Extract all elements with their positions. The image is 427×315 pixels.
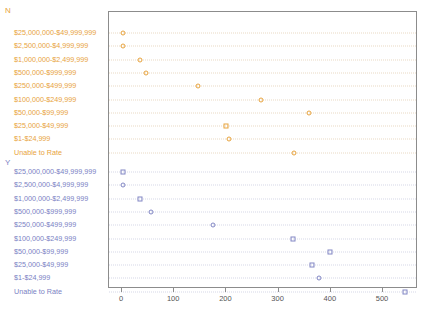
data-point: [290, 236, 295, 241]
gridline-row: [109, 59, 416, 60]
data-point: [306, 110, 311, 115]
category-label: $25,000,000-$49,999,999: [14, 29, 96, 37]
category-label: $100,000-$249,999: [14, 96, 76, 104]
data-point: [211, 223, 216, 228]
category-label: $1,000,000-$2,499,999: [14, 56, 88, 64]
data-point: [138, 196, 143, 201]
data-point: [196, 84, 201, 89]
x-axis-tick-label: 100: [167, 294, 180, 303]
gridline-row: [109, 238, 416, 239]
dot-plot-chart: N Y $25,000,000-$49,999,999$2,500,000-$4…: [0, 0, 427, 315]
category-label: $1-$24,999: [14, 135, 50, 143]
data-point: [120, 31, 125, 36]
category-label: Unable to Rate: [14, 149, 62, 157]
x-axis-tick-label: 400: [324, 294, 337, 303]
data-point: [258, 97, 263, 102]
x-axis-tick: [173, 288, 174, 292]
category-label: $50,000-$99,999: [14, 248, 68, 256]
x-axis-tick-label: 0: [119, 294, 123, 303]
gridline-row: [109, 33, 416, 34]
category-label: $500,000-$999,999: [14, 69, 76, 77]
x-axis-tick-label: 200: [219, 294, 232, 303]
x-axis-tick: [225, 288, 226, 292]
gridline-row: [109, 251, 416, 252]
data-point: [223, 124, 228, 129]
data-point: [121, 170, 126, 175]
data-point: [137, 57, 142, 62]
gridline-row: [109, 139, 416, 140]
gridline-row: [109, 46, 416, 47]
data-point: [226, 137, 231, 142]
gridline-row: [109, 152, 416, 153]
gridline-row: [109, 291, 416, 292]
category-label: $25,000-$49,999: [14, 122, 68, 130]
x-axis-tick: [278, 288, 279, 292]
gridline-row: [109, 86, 416, 87]
x-axis-tick: [121, 288, 122, 292]
data-point: [328, 249, 333, 254]
gridline-row: [109, 185, 416, 186]
category-label: $2,500,000-$4,999,999: [14, 42, 88, 50]
category-label: Unable to Rate: [14, 288, 62, 296]
data-point: [316, 276, 321, 281]
category-label: $25,000-$49,999: [14, 261, 68, 269]
data-point: [120, 183, 125, 188]
category-label: $1,000,000-$2,499,999: [14, 195, 88, 203]
gridline-row: [109, 172, 416, 173]
category-label: $50,000-$99,999: [14, 109, 68, 117]
gridline-row: [109, 126, 416, 127]
data-point: [120, 44, 125, 49]
x-axis-tick-label: 500: [376, 294, 389, 303]
x-axis-tick-label: 300: [271, 294, 284, 303]
category-label: $25,000,000-$49,999,999: [14, 168, 96, 176]
category-label: $2,500,000-$4,999,999: [14, 181, 88, 189]
x-axis-tick: [382, 288, 383, 292]
x-axis-tick: [330, 288, 331, 292]
data-point: [291, 150, 296, 155]
gridline-row: [109, 198, 416, 199]
category-label: $500,000-$999,999: [14, 208, 76, 216]
category-label: $1-$24,999: [14, 274, 50, 282]
panel-label-y: Y: [5, 158, 11, 167]
plot-frame: [108, 11, 417, 288]
gridline-row: [109, 112, 416, 113]
gridline-row: [109, 225, 416, 226]
data-point: [309, 263, 314, 268]
gridline-row: [109, 211, 416, 212]
gridline-row: [109, 278, 416, 279]
category-label: $250,000-$499,999: [14, 221, 76, 229]
category-label: $250,000-$499,999: [14, 82, 76, 90]
gridline-row: [109, 72, 416, 73]
category-label: $100,000-$249,999: [14, 235, 76, 243]
data-point: [148, 209, 153, 214]
data-point: [143, 70, 148, 75]
panel-label-n: N: [5, 6, 11, 15]
gridline-row: [109, 265, 416, 266]
data-point: [402, 289, 407, 294]
